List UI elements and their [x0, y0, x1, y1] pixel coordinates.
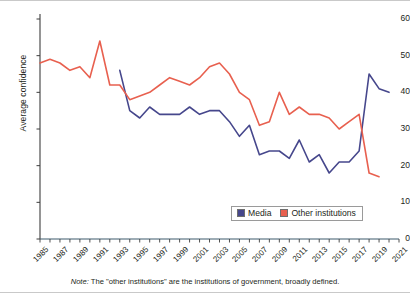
y-tick-label: 50 — [377, 50, 410, 60]
y-tick-label: 30 — [377, 123, 410, 133]
y-tick-label: 40 — [377, 86, 410, 96]
note-prefix: Note: — [71, 277, 89, 286]
legend-label-media: Media — [248, 209, 271, 218]
chart-legend: Media Other institutions — [231, 206, 363, 221]
y-tick-label: 0 — [377, 233, 410, 243]
note-text: The "other institutions" are the institu… — [91, 277, 340, 286]
chart-figure: Average confidence 0102030405060 1985198… — [0, 0, 410, 293]
legend-swatch-other-institutions — [280, 209, 288, 217]
y-tick-label: 20 — [377, 160, 410, 170]
y-tick-label: 10 — [377, 196, 410, 206]
figure-note: Note: The "other institutions" are the i… — [0, 277, 410, 286]
legend-label-other-institutions: Other institutions — [291, 209, 355, 218]
legend-swatch-media — [237, 209, 245, 217]
legend-item-other-institutions: Other institutions — [280, 209, 355, 218]
y-tick-label: 60 — [377, 13, 410, 23]
legend-item-media: Media — [237, 209, 271, 218]
